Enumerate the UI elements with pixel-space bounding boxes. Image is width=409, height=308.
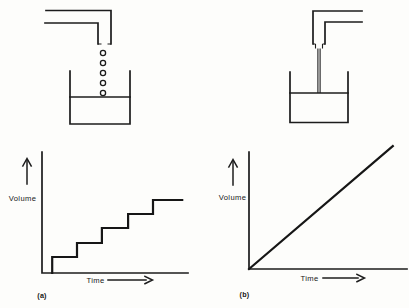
panel-b-graph: Volume Time (b) bbox=[219, 146, 407, 299]
water-drop-icon bbox=[100, 60, 105, 65]
tap-pipe-b bbox=[313, 11, 362, 49]
beaker-a bbox=[70, 71, 130, 124]
figure-canvas: Volume Time (a) Volume Time (b) bbox=[0, 0, 409, 308]
water-drop-icon bbox=[100, 80, 105, 85]
water-drop-icon bbox=[100, 70, 105, 75]
tap-pipe-outer-line bbox=[46, 11, 111, 45]
water-drops bbox=[100, 50, 105, 95]
time-axis-label: Time bbox=[87, 276, 105, 285]
textbook-figure-page: Volume Time (a) Volume Time (b) bbox=[0, 0, 409, 308]
tap-nozzle bbox=[313, 44, 325, 49]
beaker-outline bbox=[290, 72, 348, 123]
panel-a-apparatus bbox=[45, 11, 130, 125]
volume-arrow-icon bbox=[23, 159, 31, 185]
panel-caption-b: (b) bbox=[240, 290, 250, 299]
water-stream-line bbox=[318, 49, 320, 94]
linear-curve bbox=[249, 146, 393, 269]
volume-axis-label: Volume bbox=[9, 194, 36, 203]
graph-b-axes bbox=[249, 152, 407, 269]
water-drop-icon bbox=[100, 90, 105, 95]
volume-axis-label: Volume bbox=[219, 193, 246, 202]
step-curve bbox=[52, 200, 182, 273]
time-arrow-icon bbox=[108, 276, 153, 283]
water-drop-icon bbox=[100, 50, 105, 55]
tap-pipe-inner-line bbox=[325, 22, 362, 44]
tap-pipe-outer-line bbox=[313, 11, 362, 44]
beaker-b bbox=[290, 72, 348, 123]
time-axis-label: Time bbox=[301, 274, 319, 283]
time-arrow-icon bbox=[323, 274, 365, 281]
panel-caption-a: (a) bbox=[37, 291, 47, 300]
volume-arrow-icon bbox=[229, 160, 237, 186]
tap-pipe-inner-line bbox=[45, 23, 98, 44]
tap-pipe-a bbox=[45, 11, 111, 45]
panel-a-graph: Volume Time (a) bbox=[9, 152, 188, 300]
graph-a-axes bbox=[42, 152, 188, 273]
panel-b-apparatus bbox=[290, 11, 362, 123]
